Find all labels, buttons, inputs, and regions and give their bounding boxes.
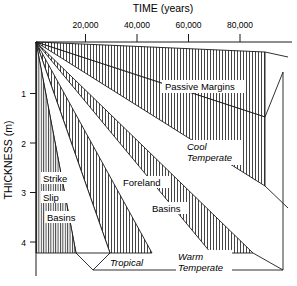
x-tick-label-2: 60,000 — [176, 20, 202, 30]
annotation-foreland-text: Foreland — [123, 177, 161, 188]
y-tick-label-3: 4 — [21, 238, 26, 248]
y-tick-label-2: 3 — [21, 188, 26, 198]
annotation-cool-temperate: Cool Temperate — [185, 140, 241, 165]
annotation-passive-margins: Passive Margins — [162, 80, 245, 93]
guide-line-strike-lower — [76, 253, 93, 270]
annotation-cool-text: Cool — [187, 141, 207, 152]
guide-line-tropical-lower — [93, 253, 110, 270]
y-tick-marks — [30, 94, 36, 243]
x-tick-label-3: 80,000 — [227, 20, 253, 30]
annotation-passive-margins-text: Passive Margins — [165, 81, 235, 92]
annotation-strike-text: Strike — [43, 173, 67, 184]
guide-line-bottom-envelope — [253, 253, 283, 270]
y-tick-label-1: 2 — [21, 139, 26, 149]
annotation-foreland-basins-text: Basins — [152, 203, 181, 214]
annotation-tropical-text: Tropical — [110, 257, 144, 268]
y-tick-label-0: 1 — [21, 89, 26, 99]
annotation-warm-temperate: Warm Temperate — [176, 250, 232, 274]
x-tick-label-1: 40,000 — [124, 20, 150, 30]
chart-canvas: 20,000 40,000 60,000 80,000 1 2 3 4 TIME… — [0, 0, 297, 286]
guide-line-passive-top — [265, 52, 288, 57]
x-tick-label-0: 20,000 — [73, 20, 99, 30]
y-axis-title: THICKNESS (m) — [2, 121, 14, 200]
annotation-warm-temperate-text: Temperate — [178, 262, 223, 273]
x-tick-marks — [86, 34, 241, 42]
annotation-strike-basins-text: Basins — [47, 212, 76, 223]
annotation-temperate-text: Temperate — [187, 152, 232, 163]
guide-line-passive-lower — [265, 72, 283, 117]
guide-line-warm-lower — [265, 186, 288, 208]
sedimentation-rate-chart: 20,000 40,000 60,000 80,000 1 2 3 4 TIME… — [0, 0, 297, 286]
annotation-slip-text: Slip — [43, 192, 59, 203]
x-axis-title: TIME (years) — [133, 2, 194, 14]
annotation-warm-text: Warm — [178, 251, 203, 262]
annotation-tropical: Tropical — [108, 256, 150, 268]
